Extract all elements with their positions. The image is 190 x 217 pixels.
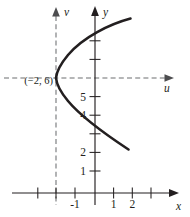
graph-canvas: v u y x -1 1 2 5 4 2 1 (−2, 6) (0, 0, 190, 217)
y-tick-label-2: 2 (80, 146, 86, 158)
y-tick-label-5: 5 (80, 91, 86, 103)
u-axis-label: u (164, 82, 170, 94)
vertex-point-label: (−2, 6) (24, 75, 53, 87)
parabola-curve (56, 19, 131, 150)
math-figure: v u y x -1 1 2 5 4 2 1 (−2, 6) (0, 0, 190, 217)
y-tick-label-1: 1 (80, 165, 86, 177)
u-axis-arrowhead (165, 74, 175, 82)
x-axis-label: x (175, 200, 182, 212)
x-axis-arrowhead (169, 189, 179, 197)
x-tick-label-minus1: -1 (70, 198, 80, 210)
y-tick-label-4: 4 (80, 109, 86, 121)
x-tick-label-2: 2 (129, 198, 135, 210)
x-tick-label-1: 1 (111, 198, 117, 210)
v-axis-arrowhead (52, 7, 60, 17)
v-axis-label: v (64, 6, 70, 18)
y-axis-label: y (102, 6, 109, 19)
y-axis-arrowhead (91, 6, 99, 16)
